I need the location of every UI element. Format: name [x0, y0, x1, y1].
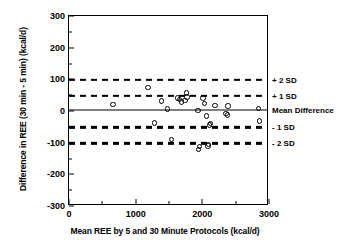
x-tick — [135, 199, 136, 204]
data-point — [184, 94, 189, 99]
data-point — [195, 108, 200, 113]
reference-line-label: Mean Difference — [272, 106, 334, 115]
plot-area: 3002001000-100-200-300 0100020003000 + 2… — [68, 15, 268, 205]
y-tick-minor — [69, 31, 72, 32]
data-point — [110, 102, 115, 107]
x-tick-minor — [235, 201, 236, 204]
data-point — [152, 120, 157, 125]
data-point — [257, 118, 262, 123]
y-tick — [69, 16, 74, 17]
y-tick-minor — [69, 158, 72, 159]
y-tick-label: -200 — [47, 169, 65, 179]
reference-line — [69, 126, 267, 128]
y-axis-title: Difference in REE (30 min - 5 min) (kcal… — [18, 14, 28, 204]
y-tick-label: -100 — [47, 138, 65, 148]
y-tick-minor — [69, 190, 72, 191]
x-tick — [202, 199, 203, 204]
x-tick-label: 1000 — [126, 209, 146, 219]
reference-line-label: + 1 SD — [272, 91, 297, 100]
y-tick-label: 100 — [50, 74, 65, 84]
reference-line-label: + 2 SD — [272, 75, 297, 84]
data-point — [225, 103, 230, 108]
reference-line — [69, 79, 267, 81]
y-tick-minor — [69, 63, 72, 64]
data-point — [212, 103, 217, 108]
x-tick-label: 2000 — [192, 209, 212, 219]
data-point — [159, 98, 164, 103]
bland-altman-figure: Difference in REE (30 min - 5 min) (kcal… — [0, 0, 354, 247]
data-point — [225, 112, 230, 117]
data-point — [197, 144, 202, 149]
y-tick — [69, 206, 74, 207]
y-tick-label: 300 — [50, 11, 65, 21]
x-tick-label: 3000 — [259, 209, 279, 219]
reference-line-label: - 1 SD — [272, 123, 295, 132]
x-tick-label: 0 — [66, 209, 71, 219]
data-point — [204, 113, 209, 118]
reference-line — [69, 95, 267, 97]
x-tick-minor — [169, 201, 170, 204]
data-point — [202, 101, 207, 106]
x-tick — [269, 199, 270, 204]
x-axis-title: Mean REE by 5 and 30 Minute Protocols (k… — [0, 226, 330, 236]
x-tick-minor — [102, 201, 103, 204]
y-tick — [69, 47, 74, 48]
y-tick-label: -300 — [47, 201, 65, 211]
x-tick — [69, 199, 70, 204]
y-tick — [69, 174, 74, 175]
reference-line — [69, 142, 267, 144]
y-tick-label: 200 — [50, 43, 65, 53]
reference-line-label: - 2 SD — [272, 139, 295, 148]
data-point — [165, 106, 170, 111]
data-point — [145, 85, 150, 90]
y-tick-label: 0 — [60, 106, 65, 116]
data-point — [200, 95, 205, 100]
